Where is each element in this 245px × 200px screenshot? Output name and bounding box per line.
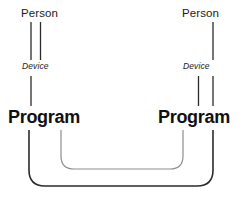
right-person-label: Person [182,8,219,20]
right-program-label: Program [158,108,230,126]
left-person-label: Person [21,8,58,20]
diagram-canvas: Person Device Program Person Device Prog… [0,0,245,200]
diagram-edges [0,0,245,200]
right-device-label: Device [183,62,210,71]
inner-connector [61,130,183,169]
left-device-label: Device [22,62,49,71]
outer-connector [29,130,213,186]
left-program-label: Program [8,108,80,126]
